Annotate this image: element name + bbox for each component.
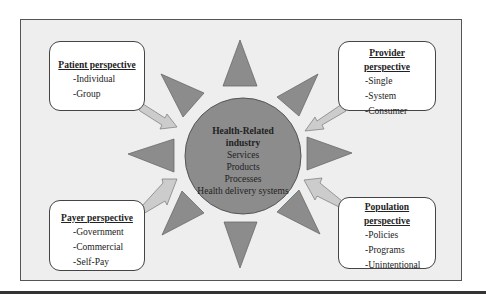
- center-label: Health-Related industry Services Product…: [185, 125, 301, 197]
- population-item: -Policies: [339, 228, 435, 243]
- population-item: -Unintentional: [339, 258, 435, 273]
- payer-perspective-box: Payer perspective -Government -Commercia…: [49, 200, 145, 271]
- patient-item: -Group: [50, 87, 144, 102]
- ray-triangle-bottom: [224, 222, 257, 268]
- payer-item: -Self-Pay: [50, 255, 144, 270]
- bottom-rule: [0, 291, 486, 294]
- payer-perspective-title: Payer perspective: [50, 211, 144, 225]
- payer-item: -Commercial: [50, 240, 144, 255]
- population-perspective-box: Population perspective -Policies -Progra…: [338, 197, 436, 269]
- ray-triangle-top-left: [161, 74, 204, 117]
- ray-triangle-top-right: [277, 74, 318, 116]
- arrow-payer-to-center: [140, 179, 177, 214]
- ray-triangle-top: [223, 40, 257, 86]
- patient-perspective-box: Patient perspective -Individual -Group: [49, 41, 145, 111]
- provider-perspective-title-line1: Provider: [339, 46, 435, 60]
- center-title-line2: industry: [185, 137, 301, 149]
- ray-triangle-left: [128, 139, 174, 172]
- provider-item: -Consumer: [339, 104, 435, 119]
- population-perspective-title-line1: Population: [339, 200, 435, 214]
- arrow-population-to-center: [304, 178, 342, 207]
- provider-item: -Single: [339, 74, 435, 89]
- center-item: Processes: [185, 173, 301, 185]
- arrow-patient-to-center: [139, 104, 177, 129]
- center-item: Health delivery systems: [185, 185, 301, 197]
- center-title-line1: Health-Related: [185, 125, 301, 137]
- patient-perspective-title: Patient perspective: [50, 58, 144, 72]
- population-perspective-title-line2: perspective: [339, 214, 435, 228]
- provider-perspective-box: Provider perspective -Single -System -Co…: [338, 41, 436, 111]
- ray-triangle-right: [307, 137, 352, 170]
- population-item: -Programs: [339, 243, 435, 258]
- payer-item: -Government: [50, 225, 144, 240]
- provider-perspective-title-line2: perspective: [339, 60, 435, 74]
- center-item: Products: [185, 161, 301, 173]
- provider-item: -System: [339, 89, 435, 104]
- center-item: Services: [185, 149, 301, 161]
- patient-item: -Individual: [50, 72, 144, 87]
